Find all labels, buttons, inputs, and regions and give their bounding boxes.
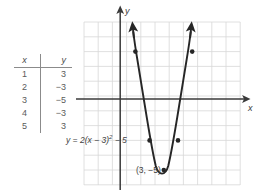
data-point (190, 49, 195, 54)
coordinate-graph (0, 0, 262, 194)
data-point (147, 138, 152, 143)
y-axis-label: y (125, 6, 130, 16)
data-point (162, 168, 167, 173)
x-axis-label: x (248, 103, 253, 113)
curve-arrow-right (190, 27, 191, 38)
curve-arrow-left (133, 27, 134, 38)
parabola-curve (133, 32, 190, 174)
data-point (133, 49, 138, 54)
equation-suffix: − 5 (112, 135, 126, 145)
data-point (176, 138, 181, 143)
equation-label: y = 2(x − 3)2 − 5 (66, 134, 127, 145)
equation-prefix: y = 2(x − 3) (66, 135, 109, 145)
figure-container: x y 1 3 2 −3 3 −5 4 −3 (0, 0, 262, 194)
vertex-label: (3, −5) (136, 165, 161, 175)
grid-lines (84, 22, 240, 185)
